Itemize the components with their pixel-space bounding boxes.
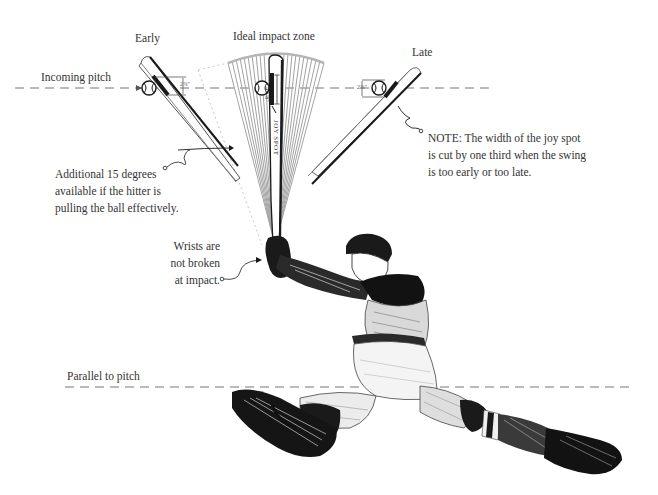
joy-spot-note: NOTE: The width of the joy spot is cut b… [428,130,586,181]
wrists-line-1: Wrists are [150,238,220,255]
note-line-3: is too early or too late. [428,164,586,181]
early-baseball [142,81,156,95]
note-line-2: is cut by one third when the swing [428,147,586,164]
additional-degrees-line-2: available if the hitter is [55,183,179,200]
ideal-measurement: 4 3/8" [263,87,271,102]
additional-degrees-annotation: Additional 15 degrees available if the h… [55,166,179,217]
parallel-to-pitch-label: Parallel to pitch [67,368,140,385]
early-measurement: 2⅞" [180,80,190,88]
note-line-1: NOTE: The width of the joy spot [428,130,586,147]
incoming-pitch-label: Incoming pitch [41,69,111,86]
wrists-leader [220,257,262,281]
wrists-line-3: at impact. [150,272,220,289]
late-baseball [372,81,386,95]
late-label: Late [412,44,432,61]
late-measurement: 2⅞" [357,83,367,91]
early-label: Early [135,30,160,47]
early-bat [139,57,240,182]
wrists-line-2: not broken [150,255,220,272]
joy-spot-label: JOY SPOT [272,120,280,155]
batter-figure [232,234,622,474]
wrists-annotation: Wrists are not broken at impact. [150,238,220,289]
ideal-impact-zone-label: Ideal impact zone [233,28,315,45]
additional-degrees-line-1: Additional 15 degrees [55,166,179,183]
baseball-swing-diagram: Early Ideal impact zone Late Incoming pi… [0,0,658,495]
additional-degrees-line-3: pulling the ball effectively. [55,200,179,217]
